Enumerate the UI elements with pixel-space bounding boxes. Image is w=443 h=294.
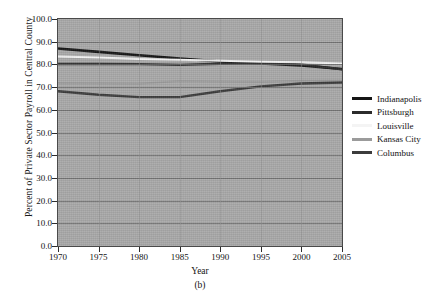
y-axis-tick-label: 50.0 (36, 128, 52, 138)
x-axis-tick-label: 1970 (49, 252, 67, 262)
x-axis-tick-label: 1995 (252, 252, 270, 262)
y-axis-tick-label: 0.0 (41, 241, 52, 251)
legend-item: Pittsburgh (352, 106, 442, 120)
legend-label: Pittsburgh (377, 107, 414, 117)
legend-color-swatch (352, 111, 372, 114)
vertical-gridline (139, 19, 140, 246)
legend-item: Kansas City (352, 133, 442, 147)
legend-item: Louisville (352, 119, 442, 133)
figure-caption: (b) (57, 280, 343, 290)
x-axis-title: Year (57, 266, 343, 276)
vertical-gridline (180, 19, 181, 246)
x-axis-tick-label: 1980 (130, 252, 148, 262)
legend-label: Indianapolis (377, 94, 422, 104)
legend-color-swatch (352, 151, 372, 154)
legend-label: Columbus (377, 148, 414, 158)
y-axis-title: Percent of Private Sector Payroll in Cen… (24, 0, 34, 242)
y-axis-tick-label: 10.0 (36, 218, 52, 228)
y-axis-tick-label: 20.0 (36, 196, 52, 206)
legend: IndianapolisPittsburghLouisvilleKansas C… (352, 92, 442, 160)
x-axis-tick-label: 1985 (171, 252, 189, 262)
gridline (58, 42, 342, 43)
y-axis-tick-label: 80.0 (36, 59, 52, 69)
y-axis-tick-label: 60.0 (36, 105, 52, 115)
legend-item: Columbus (352, 146, 442, 160)
vertical-gridline (261, 19, 262, 246)
gridline (58, 178, 342, 179)
y-axis-tick-label: 100.0 (32, 14, 52, 24)
legend-label: Louisville (377, 121, 414, 131)
vertical-gridline (220, 19, 221, 246)
vertical-gridline (301, 19, 302, 246)
series-line (58, 83, 342, 98)
gridline (58, 110, 342, 111)
x-axis-tick-label: 1975 (90, 252, 108, 262)
gridline (58, 87, 342, 88)
legend-color-swatch (352, 138, 372, 141)
gridline (58, 133, 342, 134)
x-axis-tick-label: 1990 (211, 252, 229, 262)
series-line (58, 56, 342, 63)
x-axis-tick-label: 2005 (333, 252, 351, 262)
vertical-gridline (99, 19, 100, 246)
x-axis-tick-label: 2000 (292, 252, 310, 262)
legend-label: Kansas City (377, 134, 421, 144)
y-axis-tick-label: 70.0 (36, 82, 52, 92)
gridline (58, 201, 342, 202)
legend-color-swatch (352, 124, 372, 127)
y-axis-tick-label: 40.0 (36, 150, 52, 160)
legend-color-swatch (352, 97, 372, 100)
y-axis-tick-label: 30.0 (36, 173, 52, 183)
plot-area (57, 18, 343, 247)
gridline (58, 223, 342, 224)
gridline (58, 155, 342, 156)
series-line (58, 49, 342, 69)
legend-item: Indianapolis (352, 92, 442, 106)
figure: Percent of Private Sector Payroll in Cen… (0, 0, 443, 294)
y-axis-tick-label: 90.0 (36, 37, 52, 47)
gridline (58, 64, 342, 65)
